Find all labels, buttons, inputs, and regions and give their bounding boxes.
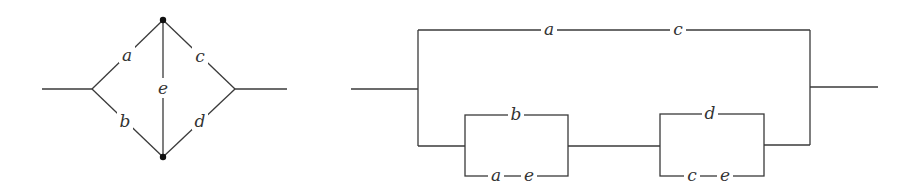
label-c: c: [195, 46, 205, 66]
diagram-canvas: a c e b d a c b a e d c e: [0, 0, 914, 191]
block-1-label-b: b: [511, 104, 522, 124]
bottom-node-dot: [160, 154, 166, 160]
block-2-label-c: c: [687, 165, 697, 185]
top-label-c: c: [673, 19, 683, 39]
block-2-label-e: e: [720, 165, 730, 185]
block-1-label-e: e: [524, 165, 534, 185]
label-e: e: [158, 78, 168, 98]
block-2-label-d: d: [705, 103, 716, 123]
top-node-dot: [160, 17, 166, 23]
block-1-label-a: a: [491, 165, 501, 185]
label-b: b: [120, 111, 131, 131]
label-a: a: [122, 45, 132, 65]
top-label-a: a: [544, 19, 554, 39]
series-parallel-network: a c b a e d c e: [351, 19, 878, 186]
bridge-network: a c e b d: [42, 17, 287, 160]
label-d: d: [195, 111, 206, 131]
